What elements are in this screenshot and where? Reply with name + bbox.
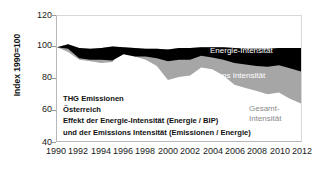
annotation-line-1: THG Emissionen (63, 93, 251, 104)
series-label-gesamt-line2: Intensität (249, 114, 281, 124)
chart-container: Index 1990=100 120 100 80 60 40 Energie-… (0, 0, 321, 170)
series-label-emissions-intensitaet: Emissions Intensität (194, 71, 265, 81)
annotation-line-2: Österreich (63, 104, 251, 115)
series-label-energie-intensitaet: Energie-Intensität (210, 46, 273, 56)
x-tick-2012: 2012 (285, 146, 319, 156)
series-label-gesamt-intensitaet: Gesamt- Intensität (249, 104, 281, 123)
annotation-line-3: Effekt der Energie-Intensität (Energie /… (63, 115, 251, 126)
y-tick-120: 120 (26, 11, 52, 20)
y-tickmark-40 (51, 142, 56, 143)
y-axis-title: Index 1990=100 (12, 10, 22, 120)
y-tick-80: 80 (26, 73, 52, 82)
y-tick-60: 60 (26, 105, 52, 114)
annotation-line-4: und der Emissions Intensität (Emissionen… (63, 127, 251, 138)
series-label-gesamt-line1: Gesamt- (249, 104, 281, 114)
chart-annotation: THG Emissionen Österreich Effekt der Ene… (63, 93, 251, 138)
y-axis-tick-labels: 120 100 80 60 40 (26, 0, 52, 170)
y-tick-100: 100 (26, 41, 52, 50)
x-axis-tick-labels: 1990 1992 1994 1996 1998 2000 2002 2004 … (56, 146, 303, 162)
